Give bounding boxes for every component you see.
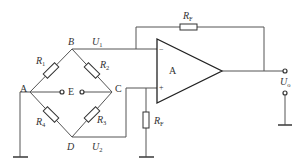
output-terminal-bottom [283, 91, 287, 95]
node-b-label: B [68, 37, 74, 47]
circuit-wires [0, 0, 303, 167]
node-d-label: D [67, 142, 74, 152]
opamp-label: A [169, 66, 176, 76]
resistor-rf-ground-body [143, 112, 149, 128]
resistor-r1-body [43, 63, 59, 79]
resistor-rf-feedback-body [180, 24, 197, 30]
node-e-label: E [68, 87, 74, 97]
rf-ground-label: RF [154, 116, 164, 128]
r2-label: R2 [100, 60, 109, 72]
r3-label: R3 [97, 115, 106, 127]
resistor-r2-body [84, 63, 100, 79]
output-terminal-top [283, 69, 287, 73]
e-terminal-right [80, 90, 84, 94]
rf-feedback-label: RF [183, 11, 193, 23]
u2-label: U2 [92, 142, 102, 154]
r4-label: R4 [36, 117, 45, 129]
r1-label: R1 [36, 56, 45, 68]
bridge-amplifier-diagram: B A C D E R1 R2 R4 R3 RF RF U1 U2 Uo A −… [0, 0, 303, 167]
opamp-triangle [157, 39, 222, 103]
node-a-label: A [20, 84, 27, 94]
u1-label: U1 [92, 37, 102, 49]
resistor-r4-body [43, 107, 59, 123]
inverting-input-sign: − [159, 46, 164, 54]
node-c-label: C [115, 84, 122, 94]
e-terminal-left [60, 90, 64, 94]
noninverting-input-sign: + [159, 84, 164, 92]
uo-label: Uo [280, 77, 290, 89]
